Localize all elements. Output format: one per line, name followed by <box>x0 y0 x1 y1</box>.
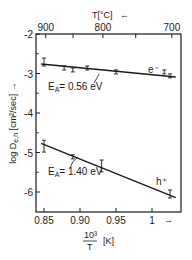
data-point <box>71 68 75 72</box>
x-axis-title-unit: [K] <box>103 236 114 246</box>
y-tick-label: -6 <box>24 187 33 198</box>
diffusion-chart: T[°C] ← 0.850.900.951-2-3-4-5-6900800700… <box>0 0 192 260</box>
data-point <box>42 140 46 152</box>
x-tick-label: 0.90 <box>70 215 90 226</box>
x-axis-title-denominator: T <box>87 242 93 252</box>
x-axis-title-numerator: 10³ <box>84 230 97 240</box>
top-tick-label: 800 <box>95 22 112 33</box>
x-tick-label: 1 <box>149 215 155 226</box>
x-tick-label: 0.85 <box>34 215 54 226</box>
top-axis-arrow: ← <box>120 10 129 20</box>
y-tick-label: -4 <box>24 108 33 119</box>
y-tick-label: -3 <box>24 69 33 80</box>
series-label-electron: e⁻ <box>148 64 159 75</box>
x-axis-arrow: → <box>164 215 173 225</box>
y-axis-title: log De,h [cm²/sec] → <box>8 82 19 163</box>
x-tick-label: 0.95 <box>106 215 126 226</box>
y-tick-label: -2 <box>24 29 33 40</box>
top-tick-label: 700 <box>164 22 181 33</box>
top-tick-label: 900 <box>37 22 54 33</box>
series-label-hole: h⁺ <box>156 176 167 187</box>
top-axis-title: T[°C] <box>92 10 113 20</box>
data-point <box>162 70 166 74</box>
y-tick-label: -5 <box>24 148 33 159</box>
annotation-h-activation: EA= 1.40 eV <box>48 166 103 178</box>
